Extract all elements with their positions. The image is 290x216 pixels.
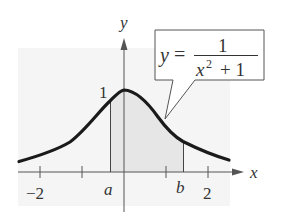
marker-b-label: b <box>176 178 185 197</box>
function-graph: y x −2 2 1 a b y = 1 x 2 + 1 <box>0 0 290 216</box>
callout-denominator-base: x <box>195 59 205 80</box>
x-axis-label: x <box>249 163 258 182</box>
callout-denominator-rest: + 1 <box>220 59 245 80</box>
y-axis-label: y <box>118 13 128 32</box>
callout-lhs: y <box>158 44 169 67</box>
x-tick-label-2: 2 <box>203 184 212 203</box>
x-axis-arrow-icon <box>232 169 244 176</box>
callout-denominator-exponent: 2 <box>206 57 212 71</box>
y-tick-label-1: 1 <box>99 83 108 102</box>
x-tick-label-neg2: −2 <box>26 184 44 203</box>
y-axis-arrow-icon <box>121 38 128 50</box>
marker-a-label: a <box>104 180 113 199</box>
callout-numerator: 1 <box>218 35 228 56</box>
callout-equals: = <box>174 43 185 65</box>
